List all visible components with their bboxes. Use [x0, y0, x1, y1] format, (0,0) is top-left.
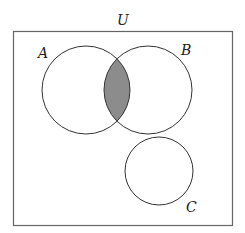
set-a-label: A: [36, 45, 48, 61]
universe-label: U: [117, 12, 130, 28]
venn-diagram: U A B C: [0, 0, 245, 233]
set-b-label: B: [180, 42, 191, 58]
set-c-label: C: [186, 199, 197, 215]
set-c-circle: [125, 137, 193, 205]
